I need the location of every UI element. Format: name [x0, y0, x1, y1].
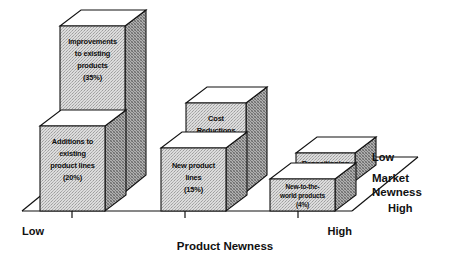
z-axis-title-line2: Newness	[372, 186, 422, 198]
bar-label-additions-value: (20%)	[63, 173, 83, 182]
x-axis-low-label: Low	[22, 225, 44, 237]
bar-label-new-product-lines-line1: New product	[172, 161, 216, 170]
bar-side-cost-reductions	[246, 87, 267, 192]
bar-label-new-product-lines-value: (15%)	[184, 185, 204, 194]
x-axis-title: Product Newness	[177, 240, 274, 252]
bar-label-new-to-world-line2: world products	[279, 192, 325, 200]
bar-new-product-lines[interactable]: New product lines (15%)	[161, 132, 247, 211]
bar-label-new-to-world-line1: New-to-the-	[285, 183, 319, 190]
bar-label-improvements-value: (35%)	[83, 73, 103, 82]
bar-new-to-the-world-products[interactable]: New-to-the- world products (4%)	[270, 163, 356, 211]
bar-label-improvements-line3: products	[77, 61, 107, 70]
bar-label-additions-line3: product lines	[50, 161, 94, 170]
bar-label-new-product-lines-line2: lines	[185, 173, 201, 182]
bar-label-additions-line1: Additions to	[52, 137, 94, 146]
bar-label-new-to-world-value: (4%)	[296, 201, 309, 209]
bar-side-additions	[105, 110, 126, 211]
bar-label-additions-line2: existing	[59, 149, 86, 158]
bar-label-improvements-line2: to existing	[75, 49, 111, 58]
3d-bar-chart: Improvements to existing products (35%) …	[0, 0, 450, 266]
bar-side-improvements	[125, 10, 146, 192]
z-axis-title-line1: Market	[372, 172, 409, 184]
bar-label-improvements-line1: Improvements	[68, 37, 117, 46]
x-axis-high-label: High	[328, 225, 353, 237]
bar-label-cost-reductions-line1: Cost	[208, 114, 225, 123]
bar-additions-to-existing-product-lines[interactable]: Additions to existing product lines (20%…	[40, 110, 126, 211]
z-axis-high-label: High	[388, 202, 413, 214]
z-axis-low-label: Low	[372, 151, 394, 163]
